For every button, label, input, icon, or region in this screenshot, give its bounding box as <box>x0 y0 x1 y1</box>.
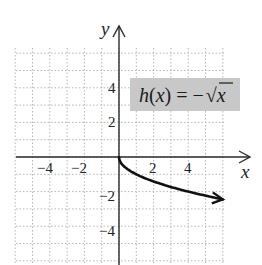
function-label: h(x) = −√x <box>139 84 226 107</box>
x-tick-label: 2 <box>149 160 157 176</box>
graph: h(x) = −√x x y −4 −2 2 4 4 2 −2 −4 <box>0 0 262 265</box>
y-axis-label: y <box>99 18 110 39</box>
y-tick-label: 2 <box>108 114 116 130</box>
y-tick-label: −2 <box>99 188 115 204</box>
y-tick-label: −4 <box>99 223 115 239</box>
x-tick-label: −4 <box>37 160 53 176</box>
x-tick-label: −2 <box>71 160 87 176</box>
x-tick-label: 4 <box>184 160 192 176</box>
y-tick-label: 4 <box>108 80 116 96</box>
x-axis-label: x <box>240 161 250 182</box>
